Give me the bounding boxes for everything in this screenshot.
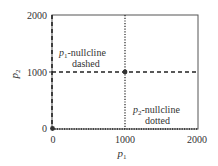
ytick-1000: 1000 xyxy=(27,67,47,78)
ytick-0: 0 xyxy=(42,123,47,134)
p1-nullcline-style-note: dashed xyxy=(72,58,100,69)
xtick-1000: 1000 xyxy=(115,134,135,145)
p2-nullcline-style-note: dotted xyxy=(145,115,170,126)
x-axis-label: p1 xyxy=(117,147,128,161)
svg-text:p2: p2 xyxy=(8,69,22,80)
ytick-2000: 2000 xyxy=(27,10,47,21)
xtick-0: 0 xyxy=(51,134,56,145)
y-axis-label: p2 xyxy=(8,69,22,80)
equilibrium-point-coexistence xyxy=(123,70,128,75)
xtick-2000: 2000 xyxy=(187,134,207,145)
equilibrium-point-origin xyxy=(50,126,55,131)
phase-plane-chart: 2000 1000 0 0 1000 2000 p1 p2 p1-nullcli… xyxy=(0,0,218,166)
